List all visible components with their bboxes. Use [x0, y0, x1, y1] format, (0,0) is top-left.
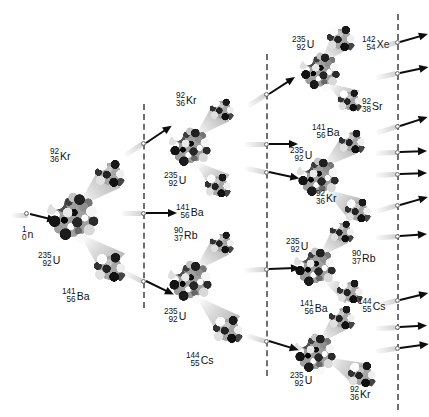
- neutron-arrow-escaping-5-neutron: [395, 172, 400, 177]
- neutron-arrow-escaping-4-neutron: [395, 150, 400, 155]
- u235-g3-d-fragment-kr-label-atomic-number: 36: [350, 394, 359, 402]
- u235-g3-a-fragment-sr-label-atomic-number: 38: [362, 106, 371, 114]
- u235-g3-a-label-atomic-number: 92: [292, 44, 306, 52]
- u235-g3-d-fragment-ba-label: 14156Ba: [300, 300, 328, 316]
- u235-g3-d-label: 23592U: [290, 372, 312, 388]
- neutron-arrow-gen2-2-neutron: [141, 211, 146, 216]
- u235-g3-b-fragment-ba-label: 14156Ba: [312, 124, 340, 140]
- generation-divider-2: [266, 54, 268, 376]
- u235-g2-a-label-symbol: U: [179, 175, 187, 186]
- u235-g3-a-label-symbol: U: [307, 39, 315, 50]
- u235-g3-c-fragment-cs-label-numbers: 14455: [358, 298, 372, 314]
- u235-g3-d-nucleus: [293, 332, 337, 376]
- u235-g3-c-label-numbers: 23592: [286, 238, 300, 254]
- u235-g2-b-label-numbers: 23592: [164, 308, 178, 324]
- u235-g3-a-fragment-sr-label-numbers: 9238: [362, 98, 371, 114]
- u235-g3-a-fragment-xe: [326, 24, 356, 54]
- neutron-arrow-gen3-3-head: [290, 172, 300, 182]
- incident-neutron-label: 10n: [22, 226, 33, 242]
- neutron-arrow-gen2-2-head: [168, 209, 177, 217]
- u235-g2-a-fragment-kr-label-atomic-number: 36: [176, 100, 185, 108]
- u235-g3-a-fragment-xe-label-atomic-number: 54: [362, 44, 376, 52]
- neutron-arrow-escaping-9-trail: [375, 325, 397, 331]
- neutron-arrow-gen3-4-neutron: [264, 267, 269, 272]
- neutron-arrow-gen3-4-trail: [244, 267, 266, 273]
- neutron-arrow-escaping-7-neutron: [395, 234, 400, 239]
- neutron-arrow-gen2-2-trail: [121, 211, 143, 216]
- u235-g2-b-fragment-cs-label-symbol: Cs: [201, 355, 214, 366]
- u235-g2-a-fragment-ba-label-numbers: 14156: [176, 204, 190, 220]
- neutron-arrow-escaping-10-head: [419, 340, 429, 349]
- neutron-arrow-gen3-4-head: [291, 264, 300, 272]
- u235-g1-label-numbers: 23592: [38, 252, 52, 268]
- u235-g1-fragment-kr: [94, 158, 126, 190]
- u235-g1-label-symbol: U: [53, 255, 61, 266]
- u235-g3-c-fragment-cs-label-atomic-number: 55: [358, 306, 372, 314]
- u235-g3-d-label-numbers: 23592: [290, 372, 304, 388]
- u235-g1-fragment-kr-label-atomic-number: 36: [50, 156, 59, 164]
- incident-neutron: [24, 211, 29, 216]
- neutron-arrow-escaping-3-head: [418, 113, 429, 123]
- u235-g3-b-label-atomic-number: 92: [290, 155, 304, 163]
- neutron-arrow-gen3-1-head: [285, 74, 297, 86]
- u235-g3-a-label: 23592U: [292, 36, 314, 52]
- u235-g2-a-fragment-kr-label-numbers: 9236: [176, 92, 185, 108]
- neutron-arrow-escaping-2-head: [419, 63, 429, 73]
- neutron-arrow-escaping-8-head: [418, 289, 429, 299]
- neutron-arrow-escaping-9-neutron: [395, 325, 400, 330]
- neutron-arrow-gen3-2-neutron: [264, 142, 269, 147]
- u235-g2-a-fragment-kr: [209, 97, 235, 123]
- u235-g3-c-label-symbol: U: [301, 241, 309, 252]
- u235-g3-d-label-atomic-number: 92: [290, 380, 304, 388]
- incident-neutron-atomic-number: 0: [22, 234, 27, 242]
- u235-g2-b-nucleus: [167, 259, 213, 305]
- u235-g2-b-fragment-rb: [209, 230, 235, 256]
- u235-g1-fragment-ba-label-symbol: Ba: [77, 291, 90, 302]
- neutron-arrow-gen3-2-trail: [244, 142, 266, 147]
- u235-g1-fragment-ba: [93, 251, 127, 285]
- u235-g2-a-fragment-ba: [204, 172, 232, 200]
- neutron-arrow-escaping-10-neutron: [395, 346, 400, 351]
- neutron-arrow-gen3-3-neutron: [264, 170, 269, 175]
- u235-g3-b-fragment-kr-label-numbers: 9236: [316, 190, 325, 206]
- incident-neutron-numbers: 10: [22, 226, 27, 242]
- u235-g3-c-fragment-rb-label-numbers: 9037: [352, 250, 361, 266]
- u235-g3-d-fragment-ba-label-atomic-number: 56: [300, 308, 314, 316]
- u235-g1-fragment-kr-label: 9236Kr: [50, 148, 71, 164]
- u235-g2-b-fragment-rb-label: 9037Rb: [174, 227, 198, 243]
- u235-g3-a-fragment-sr: [337, 88, 363, 114]
- u235-g3-b-fragment-kr-label: 9236Kr: [316, 190, 337, 206]
- neutron-arrow-escaping-5-trail: [375, 172, 397, 178]
- u235-g2-a-label-atomic-number: 92: [164, 180, 178, 188]
- u235-g2-a-fragment-ba-label: 14156Ba: [176, 204, 204, 220]
- u235-g2-a-fragment-ba-label-symbol: Ba: [191, 207, 204, 218]
- u235-g3-c-fragment-rb-label-atomic-number: 37: [352, 258, 361, 266]
- u235-g2-a-nucleus: [168, 126, 212, 170]
- u235-g2-a-label-numbers: 23592: [164, 172, 178, 188]
- u235-g3-b-label: 23592U: [290, 147, 312, 163]
- neutron-arrow-escaping-6-head: [418, 193, 429, 203]
- u235-g3-b-fragment-kr-label-symbol: Kr: [326, 193, 337, 204]
- u235-g3-d-fragment-kr-label-symbol: Kr: [360, 389, 371, 400]
- u235-g2-b-fragment-cs-label-atomic-number: 55: [186, 360, 200, 368]
- neutron-arrow-escaping-10-trail: [375, 346, 397, 354]
- u235-g3-d-label-symbol: U: [305, 375, 313, 386]
- u235-g2-a-fragment-ba-label-atomic-number: 56: [176, 212, 190, 220]
- u235-g3-c-fragment-rb: [329, 219, 355, 245]
- u235-g3-b-fragment-ba-label-atomic-number: 56: [312, 132, 326, 140]
- u235-g2-b-fragment-cs-label-numbers: 14455: [186, 352, 200, 368]
- u235-g3-a-fragment-xe-label-numbers: 14254: [362, 36, 376, 52]
- neutron-arrow-escaping-5-head: [418, 169, 427, 177]
- u235-g2-b-fragment-rb-label-numbers: 9037: [174, 227, 183, 243]
- u235-g3-d-fragment-ba: [328, 304, 356, 332]
- u235-g3-b-fragment-ba-label-numbers: 14156: [312, 124, 326, 140]
- u235-g3-d-fragment-ba-label-symbol: Ba: [315, 303, 328, 314]
- neutron-arrow-gen3-2-head: [289, 140, 298, 148]
- u235-g2-b-label-atomic-number: 92: [164, 316, 178, 324]
- incident-neutron-symbol: n: [28, 229, 34, 240]
- u235-g1-label: 23592U: [38, 252, 60, 268]
- u235-g2-b-fragment-rb-label-atomic-number: 37: [174, 235, 183, 243]
- neutron-arrow-escaping-9-head: [418, 321, 427, 329]
- u235-g1-label-atomic-number: 92: [38, 260, 52, 268]
- u235-g2-b-label: 23592U: [164, 308, 186, 324]
